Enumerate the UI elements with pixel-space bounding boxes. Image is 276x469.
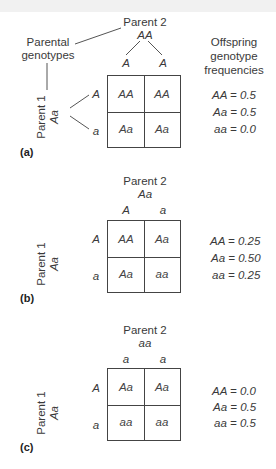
parent1-genotype: Aa	[48, 234, 61, 294]
parent1-gamete-2: a	[93, 419, 99, 432]
punnett-square: AA AA Aa Aa	[107, 75, 181, 148]
parent1-genotype: Aa	[48, 383, 61, 443]
punnett-cell: AA	[108, 221, 144, 257]
parent1-gamete-2: a	[93, 270, 99, 283]
parent2-gamete-2: A	[159, 57, 167, 70]
parental-label-line1: Parental	[27, 36, 70, 49]
parental-label-line2: genotypes	[21, 49, 74, 62]
parent1-genotype: Aa	[48, 87, 61, 147]
punnett-cell: Aa	[108, 257, 144, 293]
parent2-label: Parent 2	[123, 175, 166, 188]
parent2-gamete-2: a	[160, 204, 166, 217]
parent1-gamete-1: A	[92, 233, 100, 246]
panel-label: (c)	[20, 441, 33, 454]
parent2-gamete-1: a	[123, 353, 129, 366]
offspring-header-line1: Offspring	[211, 36, 257, 49]
parent2-label: Parent 2	[123, 324, 166, 337]
punnett-cell: Aa	[144, 221, 180, 257]
parent2-label: Parent 2	[123, 16, 166, 29]
parent1-label: Parent 1 Aa	[35, 234, 61, 294]
punnett-cell: aa	[108, 405, 144, 441]
frequency-Aa: Aa = 0.50	[211, 252, 261, 265]
parent1-label: Parent 1 Aa	[35, 87, 61, 147]
punnett-cell: Aa	[144, 112, 180, 148]
frequency-AA: AA = 0.5	[212, 89, 256, 102]
parent2-genotype: aa	[139, 337, 152, 350]
parent1-gamete-2: a	[93, 125, 99, 138]
parent2-genotype: Aa	[138, 188, 152, 201]
parent1-label-text: Parent 1	[35, 234, 48, 294]
punnett-cell: AA	[108, 76, 144, 112]
parent2-gamete-2: a	[160, 353, 166, 366]
punnett-square: Aa Aa aa aa	[107, 368, 181, 441]
frequency-AA: AA = 0.0	[212, 385, 256, 398]
frequency-Aa: Aa = 0.5	[213, 106, 256, 119]
parent2-gamete-1: A	[122, 57, 130, 70]
punnett-cell: Aa	[144, 369, 180, 405]
punnett-cell: aa	[144, 405, 180, 441]
parent1-gamete-1: A	[92, 88, 100, 101]
frequency-AA: AA = 0.25	[210, 235, 260, 248]
parent1-gamete-1: A	[92, 382, 100, 395]
punnett-cell: Aa	[108, 369, 144, 405]
frequency-aa: aa = 0.5	[214, 417, 256, 430]
panel-label: (b)	[20, 292, 34, 305]
punnett-cell: Aa	[108, 112, 144, 148]
offspring-header-line2: genotype	[210, 50, 257, 63]
parent1-label: Parent 1 Aa	[35, 383, 61, 443]
punnett-cell: AA	[144, 76, 180, 112]
offspring-header-line3: frequencies	[204, 64, 263, 77]
frequency-aa: aa = 0.25	[212, 269, 260, 282]
parent2-gamete-1: A	[122, 204, 130, 217]
punnett-cell: aa	[144, 257, 180, 293]
parent1-label-text: Parent 1	[35, 383, 48, 443]
punnett-square: AA Aa Aa aa	[107, 220, 181, 293]
parent1-label-text: Parent 1	[35, 87, 48, 147]
panel-label: (a)	[20, 146, 33, 159]
parent2-genotype: AA	[137, 29, 152, 42]
frequency-Aa: Aa = 0.5	[213, 401, 256, 414]
frequency-aa: aa = 0.0	[214, 123, 256, 136]
